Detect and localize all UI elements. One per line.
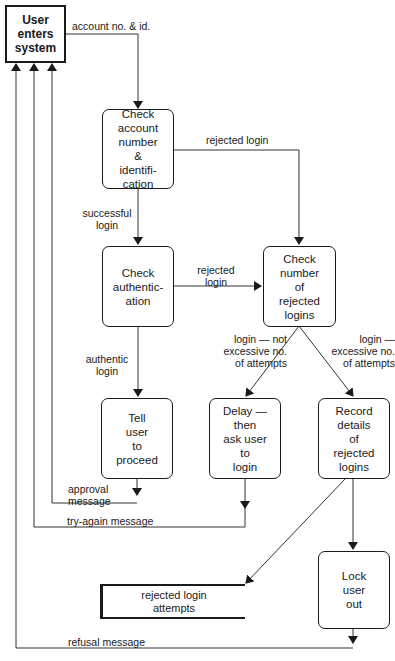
label-rejected-login-2: rejected login [192, 264, 240, 288]
process-lock-user-out: Lock user out [318, 551, 390, 629]
process-check-account: Check account number & identifi- cation [102, 109, 174, 189]
label-account-id: account no. & id. [72, 20, 150, 32]
process-tell-user-proceed: Tell user to proceed [101, 398, 173, 479]
label-authentic-login: authentic login [82, 353, 132, 377]
process-record-rejected: Record details of rejected logins [318, 398, 390, 479]
label-rejected-login-1: rejected login [206, 134, 268, 146]
process-check-authentication: Check authentic- ation [102, 246, 174, 327]
label-approval-message: approval message [68, 483, 111, 507]
process-check-rejected-logins: Check number of rejected logins [263, 246, 336, 327]
data-store-rejected-attempts: rejected login attempts [100, 584, 245, 619]
node-user-enters-system: User enters system [5, 5, 66, 63]
label-try-again-message: try-again message [67, 515, 153, 527]
label-successful-login: successful login [81, 207, 133, 231]
label-not-excessive: login — not excessive no. of attempts [200, 333, 287, 369]
label-excessive: login — excessive no. of attempts [313, 333, 395, 369]
process-delay-ask-login: Delay — then ask user to login [209, 398, 281, 479]
label-refusal-message: refusal message [68, 636, 145, 648]
